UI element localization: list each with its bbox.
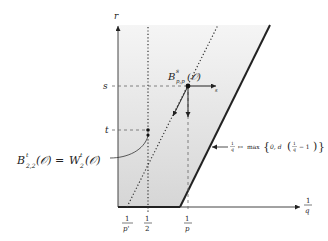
- tick-half: 1 2: [144, 215, 152, 233]
- svg-text:{: {: [263, 140, 270, 153]
- q-label-num: 1: [306, 197, 310, 205]
- svg-text:↦: ↦: [238, 143, 243, 150]
- svg-text:}: }: [318, 140, 325, 153]
- svg-text:s: s: [176, 67, 179, 74]
- svg-text:p,p: p,p: [176, 78, 185, 85]
- svg-text:1: 1: [185, 215, 189, 223]
- svg-text:2: 2: [79, 162, 84, 169]
- svg-text:): ): [313, 140, 317, 153]
- arrow-right-label: s: [215, 87, 218, 93]
- svg-text:2,2: 2,2: [25, 162, 36, 169]
- svg-text:(𝒪) =: (𝒪) =: [36, 154, 68, 167]
- svg-text:− 1: − 1: [297, 143, 310, 150]
- svg-text:1: 1: [231, 141, 234, 146]
- svg-text:B: B: [167, 71, 175, 82]
- r-axis-label: r: [114, 11, 119, 21]
- svg-text:1: 1: [125, 215, 129, 223]
- svg-text:0, d: 0, d: [270, 143, 282, 150]
- svg-text:t: t: [80, 151, 83, 158]
- svg-text:q: q: [293, 147, 296, 152]
- besov-equals-sobolev-label: B t 2,2 (𝒪) = W t 2 (𝒪): [16, 151, 101, 169]
- q-label-den: q: [305, 207, 310, 215]
- svg-text:(𝒪): (𝒪): [187, 71, 201, 82]
- tick-inv-p-prime: 1 p': [122, 215, 133, 233]
- svg-text:B: B: [16, 154, 25, 167]
- point-b: [186, 84, 191, 89]
- diagram-canvas: r s t 1 q 1 p' 1 2 1 p B s p,p (𝒪) s B t…: [0, 0, 328, 241]
- svg-text:2: 2: [145, 225, 149, 233]
- svg-text:p: p: [185, 225, 190, 233]
- svg-text:p': p': [123, 225, 129, 233]
- s-tick-label: s: [103, 81, 108, 91]
- svg-text:q: q: [231, 147, 234, 152]
- svg-text:(: (: [287, 140, 291, 153]
- svg-text:t: t: [26, 151, 29, 158]
- tick-inv-p: 1 p: [184, 215, 192, 233]
- svg-text:1: 1: [145, 215, 149, 223]
- boundary-formula: 1 q ↦ max { 0, d ( 1 q − 1 ) }: [230, 140, 325, 153]
- svg-text:max: max: [247, 143, 260, 150]
- point-t-upper: [146, 128, 150, 132]
- t-tick-label: t: [105, 125, 109, 135]
- svg-text:(𝒪): (𝒪): [85, 154, 101, 167]
- svg-text:1: 1: [293, 141, 296, 146]
